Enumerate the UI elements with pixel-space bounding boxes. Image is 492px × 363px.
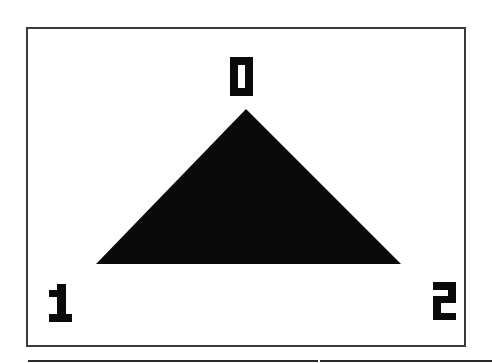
vertex-label-1 [49,284,72,322]
diagram-figure: 0 1 2 [0,0,492,363]
triangle-diagram [0,0,492,363]
page-rule-right [320,360,492,362]
filled-triangle [96,109,401,264]
vertex-label-2 [433,282,456,320]
page-rule-left [28,360,318,362]
vertex-label-0 [230,57,253,96]
